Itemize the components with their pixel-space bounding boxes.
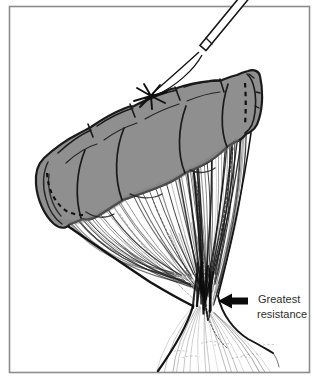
label-line1: Greatest xyxy=(258,293,300,305)
figure-canvas: Greatest resistance xyxy=(0,0,320,384)
label-line2: resistance xyxy=(257,308,307,320)
